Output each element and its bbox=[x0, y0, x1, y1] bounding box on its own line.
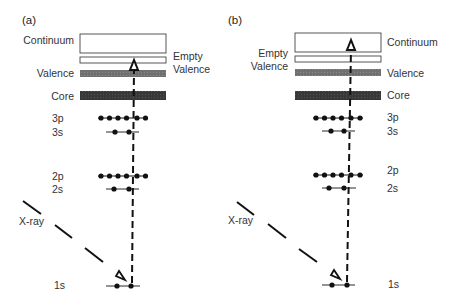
level-1s bbox=[322, 282, 355, 287]
level-2s bbox=[322, 185, 356, 190]
continuum-band bbox=[295, 33, 381, 52]
level-2p bbox=[313, 172, 363, 177]
level-2s bbox=[106, 186, 139, 191]
continuum-label: Continuum bbox=[23, 34, 74, 46]
empty-valence-band bbox=[295, 56, 381, 62]
core-band bbox=[295, 91, 381, 100]
xray-label: X-ray bbox=[228, 214, 254, 226]
transition-dashed-line bbox=[347, 48, 351, 282]
empty-label-line1: Empty bbox=[258, 47, 289, 59]
valence-label: Valence bbox=[387, 67, 424, 79]
empty-label-line2: Valence bbox=[251, 60, 288, 72]
level-3p bbox=[313, 115, 363, 120]
xray-absorption-diagram: (a) Continuum Valence Core Empty Valence… bbox=[0, 0, 454, 304]
empty-label-line2: Valence bbox=[173, 63, 210, 75]
xray-arrowhead-icon bbox=[331, 270, 340, 279]
valence-band bbox=[80, 70, 166, 77]
level-label-1s: 1s bbox=[388, 278, 399, 290]
level-label-2p: 2p bbox=[52, 170, 64, 182]
core-band bbox=[80, 91, 166, 100]
continuum-band bbox=[80, 34, 166, 53]
panel-b: (b) Continuum Valence Core Empty Valence… bbox=[228, 14, 438, 290]
level-3p bbox=[98, 115, 148, 120]
xray-beam bbox=[23, 201, 103, 262]
level-2p bbox=[98, 173, 148, 178]
level-label-3s: 3s bbox=[52, 126, 63, 138]
empty-label-line1: Empty bbox=[173, 50, 204, 62]
level-label-2p: 2p bbox=[387, 164, 399, 176]
level-label-3p: 3p bbox=[387, 111, 399, 123]
level-label-2s: 2s bbox=[387, 182, 398, 194]
xray-arrowhead-icon bbox=[116, 271, 125, 280]
panel-a: (a) Continuum Valence Core Empty Valence… bbox=[19, 14, 210, 291]
core-label: Core bbox=[387, 89, 410, 101]
panel-a-label: (a) bbox=[22, 14, 36, 26]
empty-valence-band bbox=[80, 57, 166, 63]
valence-band bbox=[295, 69, 381, 76]
level-1s bbox=[106, 283, 140, 288]
level-label-3p: 3p bbox=[52, 112, 64, 124]
valence-label: Valence bbox=[37, 67, 74, 79]
level-label-3s: 3s bbox=[387, 125, 398, 137]
xray-label: X-ray bbox=[19, 215, 45, 227]
level-label-1s: 1s bbox=[54, 279, 65, 291]
continuum-label: Continuum bbox=[387, 36, 438, 48]
xray-beam bbox=[237, 202, 317, 262]
panel-b-label: (b) bbox=[228, 14, 242, 26]
level-label-2s: 2s bbox=[52, 183, 63, 195]
core-label: Core bbox=[51, 90, 74, 102]
